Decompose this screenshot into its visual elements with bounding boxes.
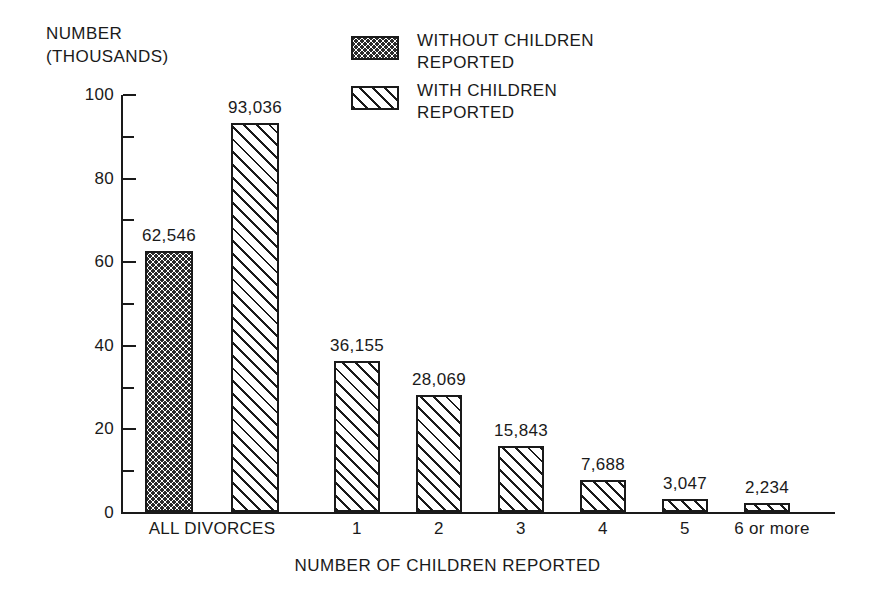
legend-swatch-dots-icon	[351, 36, 399, 60]
y-tick-major	[123, 94, 136, 96]
bar-2-with-children	[416, 395, 462, 512]
legend-label-without-children: WITHOUT CHILDREN REPORTED	[417, 30, 594, 74]
legend-label-with-children: WITH CHILDREN REPORTED	[417, 80, 557, 124]
bar-value-label: 7,688	[581, 455, 625, 475]
bar-6-or-more-with-children	[744, 503, 790, 512]
x-axis-category-label: 4	[598, 519, 608, 539]
bar-all-divorces-with-children	[231, 123, 279, 512]
x-axis-category-label: ALL DIVORCES	[149, 519, 276, 539]
y-tick-label: 80	[54, 169, 114, 189]
y-tick-minor	[123, 470, 134, 472]
y-tick-label: 0	[54, 503, 114, 523]
bar-value-label: 62,546	[142, 226, 196, 246]
bar-all-divorces-without-children	[145, 251, 193, 512]
y-tick-major	[123, 261, 136, 263]
bar-value-label: 3,047	[663, 474, 707, 494]
y-tick-label: 100	[54, 85, 114, 105]
y-tick-major	[123, 345, 136, 347]
x-axis-category-label: 2	[434, 519, 444, 539]
legend-label-with-children-line-2: REPORTED	[417, 103, 514, 122]
x-axis-category-label: 3	[516, 519, 526, 539]
y-axis-title-line-1: NUMBER	[46, 22, 168, 45]
bar-value-label: 2,234	[745, 478, 789, 498]
bar-chart: NUMBER (THOUSANDS) WITHOUT CHILDREN REPO…	[0, 0, 895, 590]
bar-value-label: 93,036	[228, 98, 282, 118]
x-axis-category-label: 1	[352, 519, 362, 539]
y-tick-label: 20	[54, 419, 114, 439]
y-axis-title: NUMBER (THOUSANDS)	[46, 22, 168, 68]
x-axis-line	[121, 512, 835, 514]
legend-swatch-hatch-icon	[351, 86, 399, 110]
y-tick-label: 60	[54, 252, 114, 272]
y-tick-major	[123, 512, 136, 514]
y-axis-title-line-2: (THOUSANDS)	[46, 45, 168, 68]
y-tick-minor	[123, 219, 134, 221]
bar-1-with-children	[334, 361, 380, 512]
bar-value-label: 36,155	[330, 336, 384, 356]
x-axis-category-label: 6 or more	[734, 519, 809, 539]
bar-3-with-children	[498, 446, 544, 512]
legend-label-without-children-line-2: REPORTED	[417, 53, 514, 72]
y-tick-major	[123, 428, 136, 430]
y-tick-minor	[123, 387, 134, 389]
y-tick-minor	[123, 303, 134, 305]
y-tick-label: 40	[54, 336, 114, 356]
bar-5-with-children	[662, 499, 708, 512]
y-tick-minor	[123, 136, 134, 138]
x-axis-category-label: 5	[680, 519, 690, 539]
bar-4-with-children	[580, 480, 626, 512]
bar-value-label: 28,069	[412, 370, 466, 390]
legend-label-with-children-line-1: WITH CHILDREN	[417, 81, 557, 100]
legend-label-without-children-line-1: WITHOUT CHILDREN	[417, 31, 594, 50]
y-tick-major	[123, 178, 136, 180]
x-axis-title: NUMBER OF CHILDREN REPORTED	[0, 556, 895, 576]
bar-value-label: 15,843	[494, 421, 548, 441]
